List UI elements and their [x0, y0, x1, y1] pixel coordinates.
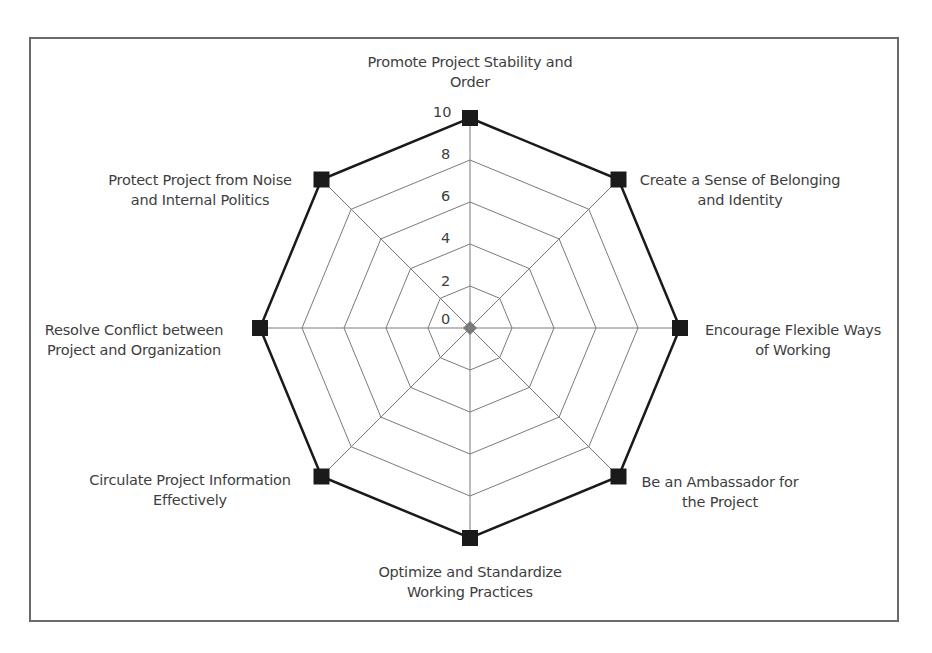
axis-label-ambassador: Be an Ambassador forthe Project: [630, 472, 810, 512]
data-point-square-icon: [314, 172, 330, 188]
axis-label-politics: Protect Project from Noiseand Internal P…: [90, 170, 310, 210]
data-point-square-icon: [462, 530, 478, 546]
tick-6: 6: [441, 188, 450, 204]
axis-label-belonging: Create a Sense of Belongingand Identity: [630, 170, 850, 210]
tick-8: 8: [441, 146, 450, 162]
axis-label-flexible: Encourage Flexible Waysof Working: [693, 320, 893, 360]
axis-label-stability: Promote Project Stability andOrder: [330, 52, 610, 92]
tick-10: 10: [433, 104, 451, 120]
axis-label-conflict: Resolve Conflict betweenProject and Orga…: [18, 320, 250, 360]
data-point-square-icon: [610, 172, 626, 188]
data-point-square-icon: [610, 468, 626, 484]
data-point-square-icon: [314, 468, 330, 484]
tick-0: 0: [441, 311, 450, 327]
data-point-square-icon: [672, 320, 688, 336]
data-point-square-icon: [252, 320, 268, 336]
tick-2: 2: [441, 273, 450, 289]
axis-label-standardize: Optimize and StandardizeWorking Practice…: [350, 562, 590, 602]
data-point-square-icon: [462, 110, 478, 126]
tick-4: 4: [441, 230, 450, 246]
axis-label-circulate: Circulate Project InformationEffectively: [70, 470, 310, 510]
